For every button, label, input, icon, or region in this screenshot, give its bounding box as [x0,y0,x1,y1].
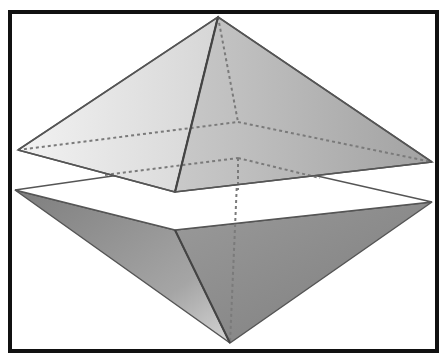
diagram-frame [0,0,445,358]
split-octahedron-diagram [0,0,445,358]
